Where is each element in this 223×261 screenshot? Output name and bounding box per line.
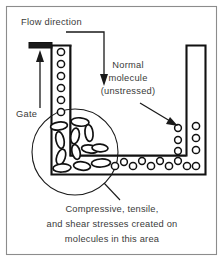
gate-bar (29, 43, 52, 49)
caption-line3: molecules in this area (65, 234, 160, 244)
molecule (57, 60, 64, 67)
molecule (139, 158, 146, 165)
gate-label: Gate (16, 109, 37, 119)
molecule (147, 162, 154, 169)
molecule (157, 158, 164, 165)
molecule (57, 48, 64, 55)
callout-leader-line (104, 183, 120, 200)
molding-stress-figure: Flow direction Gate Normal molecule (uns… (0, 0, 223, 261)
caption-line1: Compressive, tensile, (65, 204, 158, 214)
normal-molecule-label-line3: (unstressed) (101, 86, 156, 96)
molecule (175, 125, 182, 132)
molecule (192, 122, 199, 129)
molecule (175, 137, 182, 144)
molecule (175, 148, 182, 155)
molecule (129, 162, 136, 169)
molecule (57, 84, 64, 91)
molecule (57, 108, 64, 115)
gate-arrow (36, 50, 44, 108)
molecule-stressed (91, 159, 110, 168)
normal-molecule-label-line1: Normal (112, 60, 143, 70)
molecule (175, 158, 182, 165)
molecule-stressed (53, 163, 72, 172)
normal-molecule-label-line2: molecule (108, 73, 147, 83)
flow-direction-label: Flow direction (21, 17, 82, 27)
diagonal-arrow-icon (166, 117, 178, 126)
molecule (111, 162, 118, 169)
molecule (192, 162, 199, 169)
molecule (165, 162, 172, 169)
molecule (192, 146, 199, 153)
molecule (192, 134, 199, 141)
molecule (121, 159, 128, 166)
up-arrow-icon (36, 50, 44, 62)
molecule (57, 96, 64, 103)
molecule (183, 162, 190, 169)
molecule-stressed (92, 144, 108, 153)
caption-line2: and shear stresses created on (47, 219, 178, 229)
molecule (57, 72, 64, 79)
